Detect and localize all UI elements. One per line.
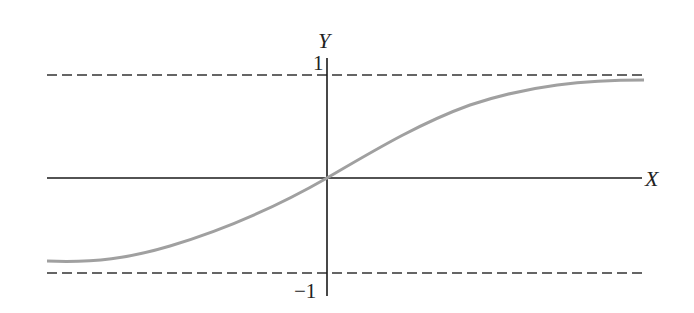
y-tick-top-label: 1: [313, 51, 324, 75]
sigmoid-diagram: Y 1 −1 X: [0, 0, 694, 313]
diagram-canvas: Y 1 −1 X: [0, 0, 694, 313]
y-axis-label: Y: [318, 28, 333, 53]
sigmoid-curve: [47, 80, 644, 261]
x-axis-label: X: [644, 166, 660, 191]
y-tick-bottom-label: −1: [294, 279, 316, 303]
